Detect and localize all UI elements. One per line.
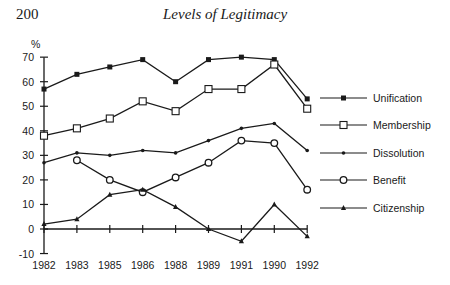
legend-label: Benefit xyxy=(373,174,406,186)
y-tick-label: 0 xyxy=(28,223,34,235)
y-tick-label: 40 xyxy=(22,125,34,137)
line-chart: %-10010203040506070198219831985198619881… xyxy=(0,0,450,285)
legend-item-membership: Membership xyxy=(320,119,431,131)
legend-item-benefit: Benefit xyxy=(320,174,406,186)
x-tick-label: 1990 xyxy=(263,259,287,271)
x-tick-label: 1992 xyxy=(296,259,320,271)
y-axis-label: % xyxy=(31,38,40,50)
x-tick-label: 1985 xyxy=(98,259,122,271)
y-tick-label: 30 xyxy=(22,149,34,161)
x-tick-label: 1989 xyxy=(197,259,221,271)
legend-item-unification: Unification xyxy=(320,92,422,104)
series-unification xyxy=(42,55,310,102)
x-tick-label: 1988 xyxy=(164,259,188,271)
legend-label: Citizenship xyxy=(373,202,425,214)
x-tick-label: 1983 xyxy=(65,259,89,271)
x-tick-label: 1982 xyxy=(32,259,56,271)
y-tick-label: 60 xyxy=(22,76,34,88)
y-tick-label: 10 xyxy=(22,198,34,210)
series-membership xyxy=(41,61,311,139)
y-tick-label: 50 xyxy=(22,100,34,112)
legend-item-dissolution: Dissolution xyxy=(320,147,425,159)
legend-item-citizenship: Citizenship xyxy=(320,202,425,214)
series-citizenship xyxy=(41,187,309,244)
legend-label: Unification xyxy=(373,92,422,104)
legend-label: Dissolution xyxy=(373,147,425,159)
y-tick-label: 70 xyxy=(22,51,34,63)
series-benefit xyxy=(74,137,311,195)
x-tick-label: 1986 xyxy=(131,259,155,271)
x-tick-label: 1991 xyxy=(230,259,254,271)
legend-label: Membership xyxy=(373,119,431,131)
y-tick-label: 20 xyxy=(22,174,34,186)
